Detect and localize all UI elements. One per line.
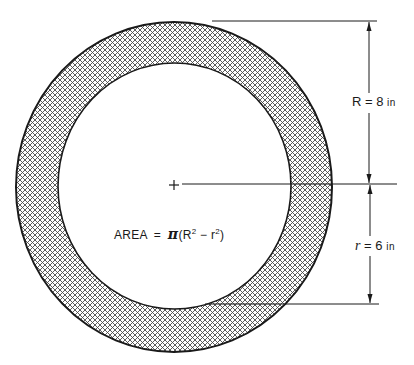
inner-radius-value: 6 (375, 238, 382, 253)
outer-radius-unit: in (387, 97, 396, 108)
area-formula-open: (R (178, 228, 191, 242)
area-formula: AREA = π(R2 − r2) (114, 226, 224, 242)
outer-radius-value: 8 (376, 94, 383, 109)
area-formula-label: AREA (114, 228, 147, 242)
area-formula-minus: − r (196, 228, 215, 242)
pi-symbol: π (168, 226, 179, 242)
hatched-ring-area (0, 0, 414, 365)
inner-radius-equals: = (364, 238, 372, 253)
outer-radius-label: R = 8 in (352, 93, 396, 110)
area-formula-equals: = (154, 228, 161, 242)
inner-radius-label: r = 6 in (355, 237, 395, 255)
inner-radius-symbol: r (355, 238, 360, 253)
annulus-diagram (0, 0, 414, 365)
outer-radius-symbol: R (352, 94, 361, 109)
area-formula-close: ) (220, 228, 224, 242)
inner-radius-unit: in (386, 241, 395, 252)
outer-radius-equals: = (365, 94, 373, 109)
